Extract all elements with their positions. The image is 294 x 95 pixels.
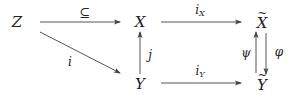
node-y-tilde-wrap: ~ Y [257,78,267,93]
node-x-tilde-wrap: ~ X [257,16,268,31]
node-x-tilde: ~ X [257,16,268,31]
label-i: i [68,56,72,68]
label-i-y: iY [195,65,204,79]
label-i-x: iX [195,4,205,18]
label-phi: φ [275,46,283,58]
arrow-z-to-y [40,32,120,73]
label-i-x-subscript: X [199,9,205,18]
tilde-decoration: ~ [258,8,267,19]
label-i-y-subscript: Y [199,70,204,79]
node-y-tilde: ~ Y [257,78,267,93]
tilde-decoration: ~ [258,70,267,81]
node-y: Y [135,77,145,92]
node-x-label: X [135,13,146,31]
node-z: Z [12,15,22,30]
label-j: j [148,49,152,61]
node-z-label: Z [12,13,22,31]
node-y-label: Y [135,75,145,93]
node-x: X [135,15,146,30]
label-psi: ψ [241,47,250,59]
label-subset: ⊆ [80,6,91,19]
commutative-diagram: Z X ~ X Y ~ Y ⊆ i j iX iY ψ φ [0,0,294,95]
